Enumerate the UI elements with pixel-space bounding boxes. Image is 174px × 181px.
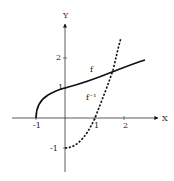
x-tick-label-1: 1: [94, 121, 99, 130]
x-tick-label-neg1: -1: [33, 121, 41, 130]
y-axis-label: Y: [62, 11, 69, 20]
graph: -1 1 2 2 1 -1 X Y f f⁻¹: [0, 0, 174, 181]
y-tick-label-2: 2: [56, 53, 61, 62]
label-f: f: [90, 65, 94, 74]
x-tick-label-2: 2: [123, 121, 128, 130]
label-f-inverse: f⁻¹: [86, 93, 96, 102]
x-axis-label: X: [162, 114, 168, 123]
y-tick-label-neg1: -1: [50, 144, 58, 153]
